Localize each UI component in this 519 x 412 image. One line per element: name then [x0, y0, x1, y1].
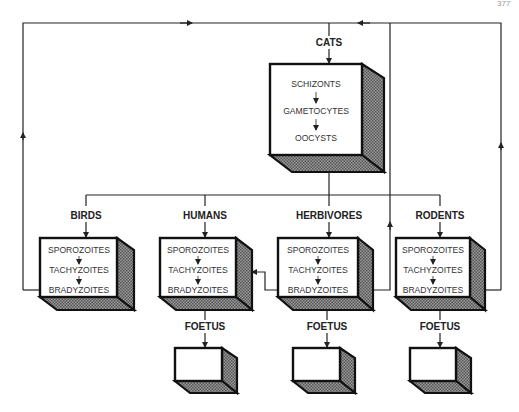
stage-sporozoites: SPOROZOITES — [287, 245, 349, 255]
cats-node: CATS SCHIZONTS GAMETOCYTES OOCYSTS — [270, 23, 384, 172]
stage-sporozoites: SPOROZOITES — [402, 245, 464, 255]
stage-bradyzoites: BRADYZOITES — [403, 285, 464, 295]
distribution-lines — [86, 172, 440, 206]
cats-label: CATS — [316, 37, 343, 48]
stage-oocysts: OOCYSTS — [295, 133, 337, 143]
stage-bradyzoites: BRADYZOITES — [49, 285, 110, 295]
stage-bradyzoites: BRADYZOITES — [168, 285, 229, 295]
page-number: 377 — [497, 0, 511, 8]
foetus-label: FOETUS — [185, 321, 226, 332]
stage-tachyzoites: TACHYZOITES — [49, 265, 109, 275]
stage-tachyzoites: TACHYZOITES — [288, 265, 348, 275]
foetus-box — [293, 348, 340, 381]
toxoplasma-life-cycle-diagram: 377 CATS SCHIZONTS GAMETOCYTES OOCYSTS — [0, 0, 519, 412]
stage-bradyzoites: BRADYZOITES — [288, 285, 349, 295]
host-birds: BIRDS SPOROZOITES TACHYZOITES BRADYZOITE… — [40, 210, 134, 310]
stage-schizonts: SCHIZONTS — [291, 79, 341, 89]
stage-gametocytes: GAMETOCYTES — [283, 106, 349, 116]
stage-tachyzoites: TACHYZOITES — [403, 265, 463, 275]
stage-sporozoites: SPOROZOITES — [48, 245, 110, 255]
stage-tachyzoites: TACHYZOITES — [168, 265, 228, 275]
host-label-birds: BIRDS — [70, 210, 101, 221]
stage-sporozoites: SPOROZOITES — [167, 245, 229, 255]
host-rodents: RODENTS SPOROZOITES TACHYZOITES BRADYZOI… — [396, 210, 485, 393]
foetus-label: FOETUS — [420, 321, 461, 332]
host-humans: HUMANS SPOROZOITES TACHYZOITES BRADYZOIT… — [160, 210, 252, 393]
host-herbivores: HERBIVORES SPOROZOITES TACHYZOITES BRADY… — [278, 195, 373, 393]
foetus-box — [410, 348, 456, 381]
foetus-label: FOETUS — [307, 321, 348, 332]
host-label-herbivores: HERBIVORES — [296, 210, 362, 221]
host-label-humans: HUMANS — [183, 210, 227, 221]
host-label-rodents: RODENTS — [416, 210, 465, 221]
foetus-box — [175, 348, 222, 381]
